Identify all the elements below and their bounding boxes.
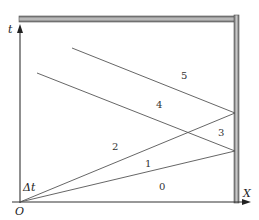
ray-lower-left — [37, 73, 235, 151]
ray-upper-left — [72, 48, 235, 113]
t-axis-label: t — [8, 23, 13, 36]
ray-origin-lower — [20, 151, 235, 202]
region-label-1: 1 — [145, 158, 151, 169]
delta-t-label: Δt — [22, 181, 36, 194]
region-label-4: 4 — [156, 99, 162, 110]
region-label-5: 5 — [181, 70, 187, 81]
region-label-0: 0 — [159, 181, 165, 192]
right-wall — [234, 15, 239, 203]
ray-origin-upper — [20, 113, 235, 202]
t-axis-arrow-icon — [17, 24, 23, 33]
x-axis-label: X — [242, 187, 252, 200]
region-label-3: 3 — [218, 127, 224, 138]
region-label-2: 2 — [112, 141, 118, 152]
wave-diagram: t X O Δt 0 1 2 3 4 5 — [0, 0, 259, 220]
top-bar — [19, 16, 237, 22]
origin-label: O — [15, 205, 24, 218]
